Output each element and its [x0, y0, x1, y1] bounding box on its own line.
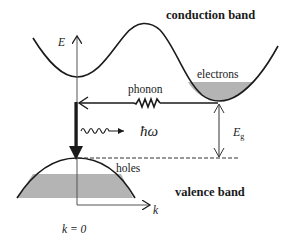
holes-label: holes [116, 162, 141, 174]
phonon-label: phonon [128, 83, 163, 96]
phonon-spring-icon [134, 99, 160, 107]
conduction-band-label: conduction band [166, 8, 255, 22]
holes-fill [17, 174, 133, 198]
bandgap-label-sub: g [240, 132, 244, 141]
k-axis-label: k [153, 204, 159, 216]
k-origin-label: k = 0 [62, 223, 87, 235]
photon-wave-icon [81, 129, 124, 134]
band-diagram: conduction band valence band electrons h… [0, 0, 295, 243]
bandgap-label: Eg [232, 125, 244, 141]
photon-label: ħω [140, 123, 158, 139]
valence-band-label: valence band [175, 185, 245, 199]
energy-axis-label: E [57, 36, 65, 48]
electrons-label: electrons [197, 68, 239, 80]
